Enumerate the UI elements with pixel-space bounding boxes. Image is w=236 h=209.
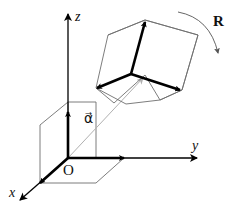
z-axis-label: z [74, 9, 81, 24]
y-axis-label: y [190, 138, 199, 153]
origin-unit-vectors [40, 112, 124, 183]
moved-frame-box [96, 20, 198, 104]
translation-vector-alpha [68, 78, 143, 158]
rigid-body-transform-diagram: z y x O α⃗ R [0, 0, 236, 209]
moved-frame-unit-vectors [97, 22, 180, 90]
x-axis-label: x [8, 185, 16, 200]
rotation-arc [178, 12, 218, 53]
rotation-label: R [213, 13, 224, 29]
alpha-vector-label: α⃗ [84, 111, 93, 126]
origin-label: O [63, 162, 74, 178]
